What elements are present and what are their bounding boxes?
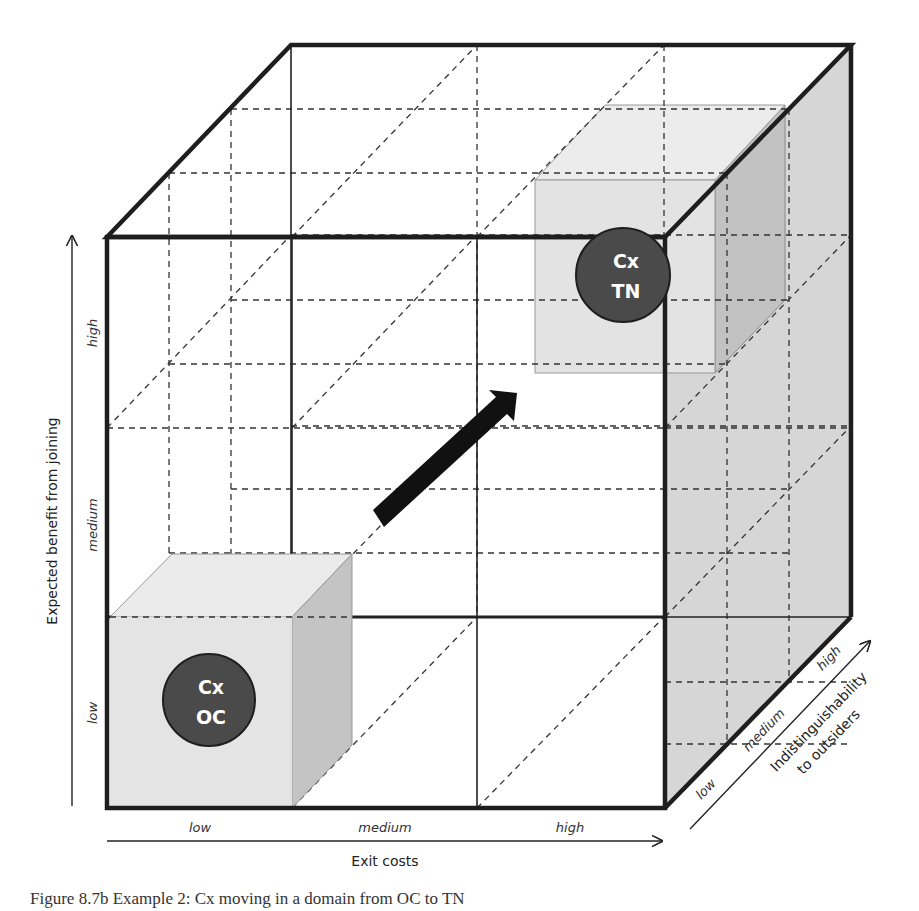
node-oc-line1: Cx [198, 676, 224, 698]
node-tn-line2: TN [612, 280, 641, 302]
x-tick-medium: medium [358, 820, 411, 835]
x-tick-high: high [556, 820, 584, 835]
y-axis-title: Expected benefit from joining [44, 417, 60, 624]
y-tick-low: low [85, 702, 100, 725]
node-oc-line2: OC [196, 706, 226, 728]
node-tn: Cx TN [576, 228, 670, 322]
figure-caption: Figure 8.7b Example 2: Cx moving in a do… [30, 889, 465, 909]
node-oc: Cx OC [163, 654, 255, 746]
movement-arrow [373, 390, 517, 527]
z-tick-low: low [693, 775, 719, 802]
y-tick-high: high [85, 319, 100, 347]
y-tick-medium: medium [85, 498, 100, 551]
node-tn-line1: Cx [613, 250, 639, 272]
x-axis-title: Exit costs [351, 853, 418, 869]
x-tick-low: low [189, 820, 212, 835]
